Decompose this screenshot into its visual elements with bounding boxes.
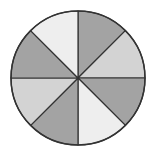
- fraction-circle-diagram: [0, 0, 153, 157]
